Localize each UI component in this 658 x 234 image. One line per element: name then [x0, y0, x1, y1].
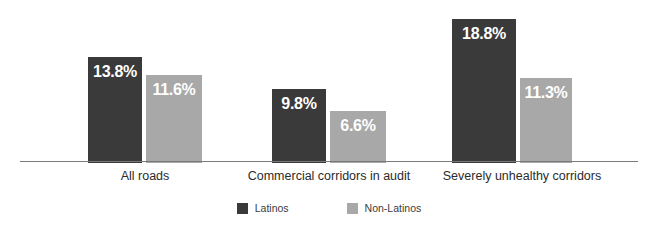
legend: Latinos Non-Latinos: [0, 203, 658, 214]
legend-item-latinos: Latinos: [237, 203, 289, 214]
x-axis-tick-label-commercial-corridors: Commercial corridors in audit: [239, 170, 419, 183]
bar-latinos-all-roads: 13.8%: [88, 57, 142, 163]
bar-non-latinos-all-roads: 11.6%: [146, 75, 202, 163]
bar-value-label: 6.6%: [330, 111, 386, 134]
bar-latinos-commercial-corridors: 9.8%: [272, 89, 326, 163]
bar-value-label: 11.3%: [520, 78, 572, 101]
bar-value-label: 11.6%: [146, 75, 202, 98]
legend-item-non-latinos: Non-Latinos: [347, 203, 422, 214]
x-axis-tick-label-all-roads: All roads: [75, 170, 215, 183]
legend-swatch-icon: [237, 203, 248, 214]
legend-item-label: Latinos: [255, 203, 289, 214]
legend-swatch-icon: [347, 203, 358, 214]
bar-value-label: 18.8%: [452, 19, 516, 42]
legend-item-label: Non-Latinos: [365, 203, 422, 214]
bar-latinos-severely-unhealthy-corridors: 18.8%: [452, 19, 516, 163]
bar-value-label: 13.8%: [88, 57, 142, 80]
x-axis-baseline: [20, 161, 638, 162]
plot-area: 13.8% 11.6% 9.8% 6.6% 18.8% 11.3%: [0, 0, 658, 163]
x-axis-tick-label-severely-unhealthy-corridors: Severely unhealthy corridors: [422, 170, 622, 183]
bar-chart: 13.8% 11.6% 9.8% 6.6% 18.8% 11.3% All ro…: [0, 0, 658, 234]
bar-non-latinos-commercial-corridors: 6.6%: [330, 111, 386, 163]
bar-value-label: 9.8%: [272, 89, 326, 112]
bar-non-latinos-severely-unhealthy-corridors: 11.3%: [520, 78, 572, 163]
